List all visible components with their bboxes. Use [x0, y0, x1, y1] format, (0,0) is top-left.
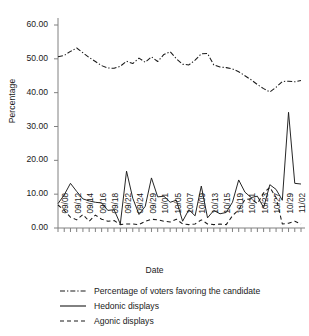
x-tick-label: 10/15 — [223, 193, 232, 233]
x-tick-label: 09/08 — [61, 193, 70, 233]
x-tick-label: 09/24 — [136, 193, 145, 233]
legend-swatch-dash-dot-icon — [58, 286, 88, 296]
x-tick-label: 10/23 — [261, 193, 270, 233]
x-tick-label: 09/22 — [124, 193, 133, 233]
x-tick-label: 09/29 — [149, 193, 158, 233]
x-tick-label: 09/12 — [74, 193, 83, 233]
x-tick-label: 11/02 — [298, 193, 307, 233]
x-tick-label: 10/13 — [211, 193, 220, 233]
x-tick-label: 10/19 — [236, 193, 245, 233]
x-tick-label: 10/27 — [273, 193, 282, 233]
legend-item: Hedonic displays — [58, 298, 303, 313]
legend-swatch-solid-icon — [58, 301, 88, 311]
x-tick-label: 09/14 — [86, 193, 95, 233]
x-tick-label: 10/09 — [198, 193, 207, 233]
x-tick-label: 10/21 — [248, 193, 257, 233]
x-tick-label: 09/18 — [111, 193, 120, 233]
chart-figure: Percentage 60.0050.0040.0030.0020.0010.0… — [0, 0, 309, 336]
legend-swatch-dashed-icon — [58, 316, 88, 326]
chart-legend: Percentage of voters favoring the candid… — [58, 283, 303, 328]
legend-label: Agonic displays — [94, 316, 154, 326]
x-tick-label: 10/07 — [186, 193, 195, 233]
x-tick-label: 10/05 — [174, 193, 183, 233]
legend-item: Percentage of voters favoring the candid… — [58, 283, 303, 298]
x-tick-label: 10/01 — [161, 193, 170, 233]
legend-label: Hedonic displays — [94, 301, 159, 311]
x-tick-label: 09/16 — [99, 193, 108, 233]
legend-item: Agonic displays — [58, 313, 303, 328]
x-axis-title: Date — [0, 265, 309, 275]
legend-label: Percentage of voters favoring the candid… — [94, 286, 260, 296]
x-tick-label: 10/29 — [286, 193, 295, 233]
